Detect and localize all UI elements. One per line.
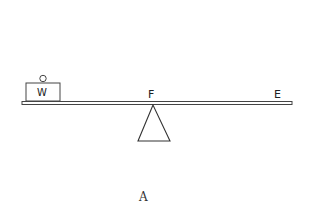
weight-hook-icon: [40, 75, 46, 81]
lever-diagram: W F E A: [0, 0, 313, 213]
effort-label: E: [274, 89, 281, 100]
lever-beam: [22, 102, 292, 105]
figure-caption: A: [139, 191, 148, 203]
fulcrum-label: F: [148, 89, 154, 100]
fulcrum-triangle: [138, 105, 170, 141]
weight-label: W: [37, 88, 47, 98]
